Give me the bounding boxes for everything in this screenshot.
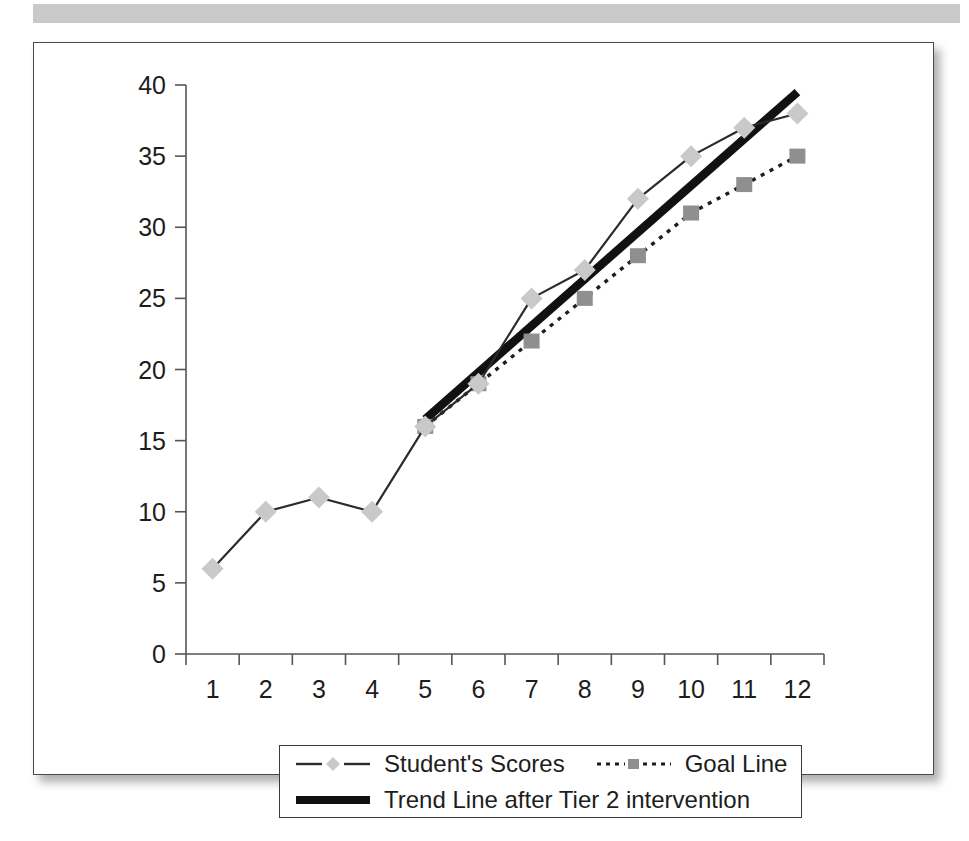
x-tick-label: 1 [206,675,220,703]
diamond-marker-icon [294,754,372,774]
legend-label-student-scores: Student's Scores [384,750,565,778]
x-tick-label: 10 [677,675,705,703]
x-axis-ticks: 123456789101112 [186,654,824,703]
plot-area: 0510152025303540 123456789101112 [34,43,935,776]
chart-legend: Student's Scores Goal Line [279,745,802,818]
page-artifact-bar [33,4,960,23]
y-tick-label: 40 [138,71,166,99]
x-tick-label: 8 [578,675,592,703]
data-point-marker [786,102,808,124]
square-marker-icon [595,754,673,774]
legend-entry-student-scores: Student's Scores [294,750,565,778]
y-tick-label: 0 [152,640,166,668]
data-point-marker [789,149,805,164]
y-tick-label: 15 [138,427,166,455]
x-tick-label: 6 [471,675,485,703]
legend-label-trend-line: Trend Line after Tier 2 intervention [384,786,750,814]
x-tick-label: 3 [312,675,326,703]
y-tick-label: 30 [138,213,166,241]
series-student-scores [202,102,809,579]
x-tick-label: 11 [731,675,757,703]
thick-line-icon [294,790,372,810]
x-tick-label: 5 [418,675,432,703]
legend-entry-trend-line: Trend Line after Tier 2 intervention [294,786,750,814]
y-tick-label: 5 [152,569,166,597]
line-chart: 0510152025303540 123456789101112 [34,43,935,776]
y-tick-label: 35 [138,142,166,170]
legend-row-top: Student's Scores Goal Line [280,746,801,782]
data-point-marker [680,145,702,167]
data-point-marker [683,206,699,221]
x-tick-label: 12 [784,675,812,703]
data-point-marker [577,291,593,306]
data-point-marker [736,177,752,192]
series-trend-line [425,92,797,419]
legend-entry-goal-line: Goal Line [595,750,788,778]
x-tick-label: 2 [259,675,273,703]
data-point-marker [521,287,543,309]
x-tick-label: 7 [525,675,539,703]
data-point-marker [627,188,649,210]
y-tick-label: 20 [138,356,166,384]
data-point-marker [630,248,646,263]
data-point-marker [524,334,540,349]
y-tick-label: 10 [138,498,166,526]
y-axis-ticks: 0510152025303540 [138,71,186,668]
y-tick-label: 25 [138,284,166,312]
chart-card: 0510152025303540 123456789101112 Student… [33,42,934,775]
legend-label-goal-line: Goal Line [685,750,788,778]
legend-row-bottom: Trend Line after Tier 2 intervention [280,782,801,818]
data-point-marker [361,501,383,523]
x-tick-label: 4 [365,675,379,703]
data-point-marker [308,487,330,509]
x-tick-label: 9 [631,675,645,703]
